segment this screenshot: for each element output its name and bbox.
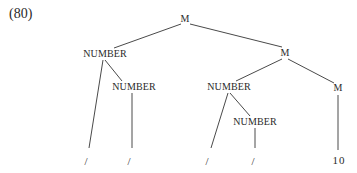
edge-m2-m3 [288,59,334,83]
tree-leaves: / / / / 10 [84,154,345,167]
node-number-1: NUMBER [83,48,127,59]
leaf-slash-2: / [127,155,131,167]
leaf-slash-4: / [251,155,255,167]
edge-n1-n1a [105,60,122,81]
syntax-tree: M NUMBER NUMBER M NUMBER NUMBER M / / / … [0,0,357,173]
leaf-slash-1: / [84,155,88,167]
leaf-slash-3: / [205,155,209,167]
node-number-1a: NUMBER [112,81,156,92]
edge-root-n1 [114,24,181,48]
edge-root-m2 [190,24,282,47]
edge-n2-n2a [230,93,250,116]
node-m-2: M [281,47,290,58]
edge-m2-n2 [236,59,282,81]
node-root-m: M [181,13,190,24]
edge-n1-leaf [89,60,103,148]
node-m-3: M [334,82,343,93]
node-number-2: NUMBER [207,81,251,92]
node-number-2a: NUMBER [233,116,277,127]
leaf-ten: 10 [333,154,346,166]
edge-n2-leaf [211,93,228,148]
